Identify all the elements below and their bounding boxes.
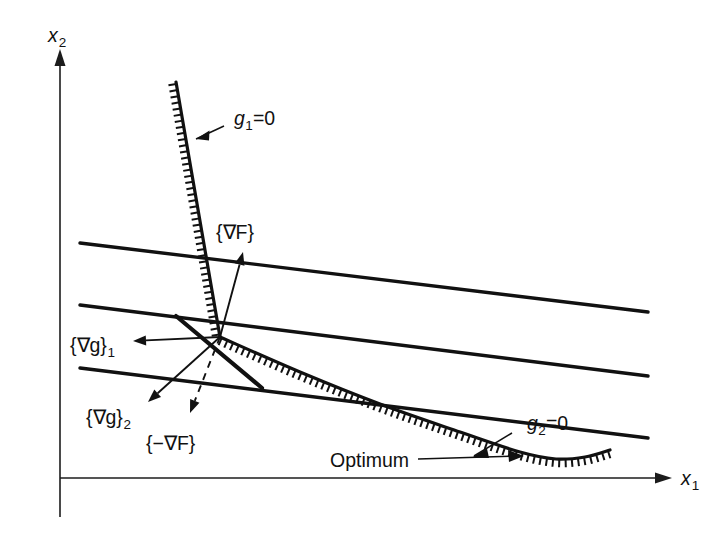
y-axis-label: x2 [47,24,66,50]
gradient-vectors-group [133,252,244,413]
objective-contour-1 [80,243,648,312]
optimum-leader-line [418,456,520,459]
neg-grad-F-label: {−∇F} [146,432,196,454]
objective-contours-group [80,243,648,438]
annotation-leaders-group [196,126,524,462]
grad-g2-vector [148,337,220,402]
x-axis-label: x1 [680,467,699,493]
g1-hatching [168,84,219,336]
diagram-canvas: x2 x1 g1=0 g2=0 {∇F} {−∇F} {∇g}1 [0,0,724,553]
g2-constraint-group [219,337,611,467]
y-axis-arrowhead [55,49,66,66]
grad-g2-label: {∇g}2 [86,406,131,432]
g2-label: g2=0 [527,412,568,438]
grad-g1-label: {∇g}1 [70,334,115,360]
text-labels-group: x2 x1 g1=0 g2=0 {∇F} {−∇F} {∇g}1 [47,24,699,493]
kkt-optimality-diagram: x2 x1 g1=0 g2=0 {∇F} {−∇F} {∇g}1 [0,0,724,553]
g2-constraint-curve [220,337,610,459]
g1-constraint-group [168,82,220,337]
x-axis-arrowhead [655,473,672,484]
objective-contour-2 [80,305,648,376]
optimum-label: Optimum [330,449,409,471]
g2-hatching [219,338,611,467]
g1-label: g1=0 [234,107,275,133]
grad-F-label: {∇F} [216,221,254,243]
g1-leader-arrowhead [196,131,210,141]
